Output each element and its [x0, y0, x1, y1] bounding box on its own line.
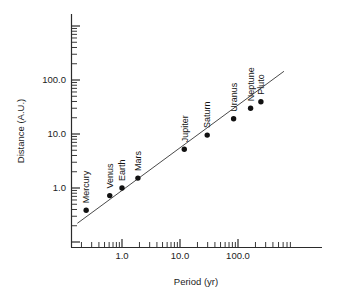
data-point-marker	[258, 99, 263, 104]
x-tick-label: 1.0	[115, 250, 128, 261]
y-tick-label: 10.0	[48, 128, 67, 139]
data-point-label: Earth	[117, 159, 127, 181]
loglog-scatter-chart: 1.010.0100.0 1.010.0100.0 MercuryVenusEa…	[0, 0, 352, 299]
data-point-label: Uranus	[229, 82, 239, 112]
data-point-label: Neptune	[246, 67, 256, 101]
data-point-label: Jupiter	[180, 115, 190, 142]
data-point-label: Mercury	[81, 170, 91, 203]
data-point-marker	[135, 175, 140, 180]
data-point-marker	[205, 132, 210, 137]
data-point-label: Saturn	[202, 102, 212, 129]
data-point-marker	[119, 185, 124, 190]
y-axis-title: Distance (A.U.)	[15, 99, 26, 163]
data-point-marker	[182, 147, 187, 152]
x-tick-label: 100.0	[226, 250, 250, 261]
x-tick-label: 10.0	[171, 250, 190, 261]
chart-figure: 1.010.0100.0 1.010.0100.0 MercuryVenusEa…	[0, 0, 352, 299]
y-tick-label: 100.0	[42, 74, 66, 85]
data-point-label: Mars	[133, 151, 143, 171]
y-tick-label: 1.0	[53, 182, 66, 193]
x-axis-title: Period (yr)	[174, 276, 218, 287]
data-point-marker	[83, 208, 88, 213]
data-point-marker	[231, 116, 236, 121]
data-point-marker	[248, 105, 253, 110]
data-point-marker	[107, 193, 112, 198]
data-point-label: Venus	[105, 163, 115, 189]
data-point-label: Pluto	[256, 74, 266, 95]
